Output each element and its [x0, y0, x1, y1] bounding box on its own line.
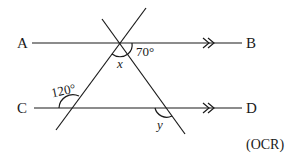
- angle-label-x: x: [117, 57, 123, 70]
- label-d: D: [246, 101, 257, 116]
- label-c: C: [17, 101, 27, 116]
- angle-label-70: 70°: [136, 45, 154, 58]
- angle-arc-70: [128, 43, 132, 54]
- label-b: B: [246, 36, 256, 51]
- transversal-2: [102, 19, 185, 134]
- angle-label-y: y: [157, 118, 163, 131]
- transversal-1: [56, 8, 146, 130]
- label-a: A: [17, 36, 28, 51]
- source-label: (OCR): [246, 138, 284, 152]
